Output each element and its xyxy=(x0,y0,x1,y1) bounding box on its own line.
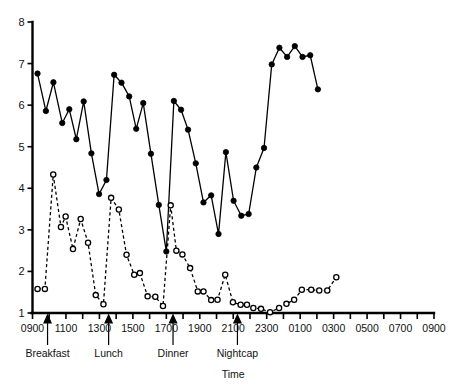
x-tick-label: 0300 xyxy=(322,322,346,334)
data-point-filled-circle xyxy=(300,54,305,59)
chart-container: 12345678 0900110013001500170019002100230… xyxy=(0,0,453,384)
data-point-filled-circle xyxy=(208,193,213,198)
data-point-filled-circle xyxy=(164,249,169,254)
meal-annotation-labels: BreakfastLunchDinnerNightcap xyxy=(25,347,258,359)
data-point-open-circle xyxy=(85,240,90,245)
data-point-filled-circle xyxy=(284,54,289,59)
meal-label: Lunch xyxy=(94,347,123,359)
data-point-filled-circle xyxy=(104,177,109,182)
data-point-open-circle xyxy=(160,303,165,308)
data-point-open-circle xyxy=(124,252,129,257)
data-point-filled-circle xyxy=(254,165,259,170)
x-tick-label: 2300 xyxy=(255,322,279,334)
data-point-open-circle xyxy=(215,297,220,302)
data-point-open-circle xyxy=(174,248,179,253)
y-tick-label: 7 xyxy=(18,58,24,70)
data-point-filled-circle xyxy=(277,45,282,50)
x-tick-label: 0900 xyxy=(21,322,45,334)
data-point-open-circle xyxy=(145,294,150,299)
data-point-open-circle xyxy=(42,286,47,291)
data-point-open-circle xyxy=(209,298,214,303)
data-point-filled-circle xyxy=(315,87,320,92)
data-point-open-circle xyxy=(309,287,314,292)
data-point-open-circle xyxy=(180,252,185,257)
data-point-open-circle xyxy=(101,302,106,307)
data-point-open-circle xyxy=(70,246,75,251)
data-point-filled-circle xyxy=(216,231,221,236)
data-point-open-circle xyxy=(276,305,281,310)
y-tick-label: 5 xyxy=(18,141,24,153)
data-point-open-circle xyxy=(223,272,228,277)
data-point-filled-circle xyxy=(269,62,274,67)
data-point-filled-circle xyxy=(292,43,297,48)
data-point-open-circle xyxy=(334,275,339,280)
series-lines xyxy=(38,46,337,312)
data-point-open-circle xyxy=(35,286,40,291)
series-markers xyxy=(35,43,339,314)
data-point-open-circle xyxy=(292,297,297,302)
x-tick-label: 1500 xyxy=(121,322,145,334)
x-tick-label: 0900 xyxy=(422,322,446,334)
data-point-filled-circle xyxy=(81,99,86,104)
data-point-open-circle xyxy=(116,207,121,212)
x-tick-label: 0700 xyxy=(389,322,413,334)
data-point-open-circle xyxy=(78,216,83,221)
data-point-filled-circle xyxy=(60,120,65,125)
data-point-open-circle xyxy=(251,305,256,310)
data-point-filled-circle xyxy=(231,198,236,203)
data-point-filled-circle xyxy=(261,145,266,150)
data-point-open-circle xyxy=(51,172,56,177)
meal-label: Nightcap xyxy=(217,347,259,359)
data-point-filled-circle xyxy=(134,126,139,131)
data-point-filled-circle xyxy=(178,107,183,112)
data-point-filled-circle xyxy=(185,127,190,132)
x-tick-label: 1100 xyxy=(55,322,78,334)
data-point-open-circle xyxy=(63,214,68,219)
data-point-open-circle xyxy=(317,288,322,293)
y-tick-label: 2 xyxy=(18,265,24,277)
data-point-filled-circle xyxy=(141,100,146,105)
data-point-filled-circle xyxy=(193,161,198,166)
data-point-filled-circle xyxy=(35,71,40,76)
data-point-filled-circle xyxy=(156,202,161,207)
data-point-filled-circle xyxy=(51,80,56,85)
y-tick-label: 6 xyxy=(18,99,24,111)
y-tick-label: 4 xyxy=(18,182,24,194)
data-point-filled-circle xyxy=(126,94,131,99)
data-point-open-circle xyxy=(325,288,330,293)
data-point-filled-circle xyxy=(239,213,244,218)
data-point-open-circle xyxy=(137,270,142,275)
data-point-open-circle xyxy=(267,310,272,315)
series-path-open-circle-series xyxy=(38,175,337,313)
data-point-open-circle xyxy=(284,301,289,306)
x-tick-label: 1300 xyxy=(88,322,112,334)
data-point-filled-circle xyxy=(246,211,251,216)
x-axis-tick-labels: 0900110013001500170019002100230001000300… xyxy=(21,322,446,334)
x-tick-label: 1900 xyxy=(188,322,212,334)
data-point-open-circle xyxy=(132,272,137,277)
data-point-open-circle xyxy=(195,289,200,294)
meal-label: Breakfast xyxy=(25,347,69,359)
data-point-open-circle xyxy=(201,289,206,294)
data-point-filled-circle xyxy=(308,53,313,58)
data-point-filled-circle xyxy=(148,151,153,156)
data-point-filled-circle xyxy=(89,151,94,156)
data-point-filled-circle xyxy=(223,149,228,154)
data-point-filled-circle xyxy=(67,107,72,112)
data-point-open-circle xyxy=(93,293,98,298)
data-point-open-circle xyxy=(238,302,243,307)
x-tick-label: 2100 xyxy=(222,322,246,334)
y-axis-tick-labels: 12345678 xyxy=(18,16,24,319)
data-point-open-circle xyxy=(244,302,249,307)
x-tick-label: 1700 xyxy=(155,322,179,334)
data-point-open-circle xyxy=(230,300,235,305)
data-point-open-circle xyxy=(187,266,192,271)
data-point-filled-circle xyxy=(119,80,124,85)
data-point-open-circle xyxy=(299,287,304,292)
data-point-filled-circle xyxy=(43,108,48,113)
y-tick-label: 1 xyxy=(18,307,24,319)
data-point-open-circle xyxy=(258,306,263,311)
data-point-filled-circle xyxy=(96,191,101,196)
data-point-open-circle xyxy=(109,195,114,200)
x-axis-title: Time xyxy=(222,368,245,380)
